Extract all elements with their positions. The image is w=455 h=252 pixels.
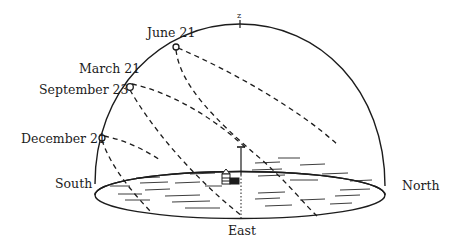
- label-south: South: [55, 178, 92, 191]
- label-north: North: [402, 180, 440, 193]
- sun-path-june-21-upper: [178, 48, 338, 145]
- sky-dome-drawing: [0, 0, 455, 252]
- label-zenith: z: [237, 12, 241, 20]
- label-december-21: December 21: [21, 133, 106, 146]
- label-june-21: June 21: [147, 27, 195, 40]
- sun-path-dec-21-upper: [104, 136, 160, 160]
- sky-dome-arc: [95, 24, 385, 186]
- sun-path-diagram: June 21 March 21 September 23 December 2…: [0, 0, 455, 252]
- label-march-21: March 21: [79, 63, 140, 76]
- label-east: East: [228, 225, 256, 238]
- label-september-23: September 23: [39, 84, 129, 97]
- marker-june-21: [173, 44, 179, 50]
- sun-path-equinox-upper: [132, 84, 248, 150]
